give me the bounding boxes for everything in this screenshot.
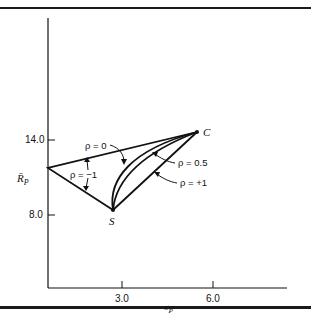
y-axis-label: R̄P (17, 172, 29, 189)
y-axis-label-main: R̄ (17, 172, 24, 184)
label-rho-plus-1: ρ = +1 (180, 177, 207, 189)
x-axis-label-sub: P (168, 307, 172, 315)
arrowhead-rho-p1 (154, 172, 160, 177)
y-axis-label-sub: P (24, 178, 29, 187)
label-rho-0.5: ρ = 0.5 (178, 157, 207, 169)
point-c (195, 130, 199, 134)
x-tick-label-3: 3.0 (115, 293, 129, 305)
y-tick-label-8: 8.0 (29, 209, 43, 221)
series-rho-plus-1 (113, 132, 197, 210)
point-s (111, 208, 115, 212)
arrowhead-rho-0 (121, 159, 127, 165)
label-rho-0: ρ = 0 (85, 140, 107, 152)
point-s-label: S (109, 215, 115, 227)
x-axis-label: σP (164, 301, 173, 317)
x-tick-label-6: 6.0 (206, 293, 220, 305)
point-c-label: C (203, 126, 210, 138)
label-rho-minus-1: ρ = −1 (70, 169, 97, 181)
y-tick-label-14: 14.0 (25, 134, 44, 146)
chart-plot (0, 0, 311, 321)
arrow-rho-p1 (157, 174, 177, 183)
